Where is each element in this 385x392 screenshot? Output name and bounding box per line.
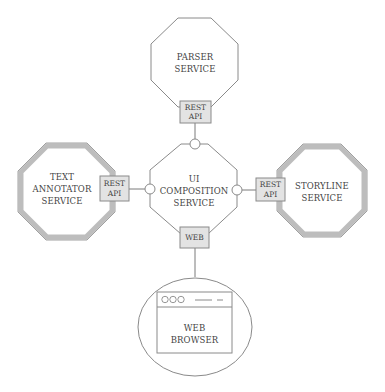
storyline-label-1: STORYLINE [295,181,349,191]
window-control-circle-2-icon [170,296,176,302]
ui-composition-label-3: SERVICE [173,198,214,208]
ui-composition-label-1: UI [189,174,200,184]
window-control-circle-1-icon [162,296,168,302]
parser-service-label-1: PARSER [177,52,214,62]
text-annotator-label-2: ANNOTATOR [32,184,92,194]
parser-service-octagon [151,18,238,107]
parser-rest-api-label-2: API [188,112,202,121]
ui-top-port-icon [190,139,200,149]
text-annotator-label-1: TEXT [50,172,74,182]
parser-service-label-2: SERVICE [174,64,215,74]
window-control-circle-3-icon [178,296,184,302]
ui-composition-service-node: UI COMPOSITION SERVICE WEB [145,139,242,248]
ui-web-interface-label: WEB [185,233,204,242]
web-browser-label-2: BROWSER [171,335,219,345]
web-browser-node: WEB BROWSER [138,278,252,376]
parser-rest-api-label-1: REST [185,103,206,112]
ui-left-port-icon [145,184,155,194]
web-browser-label-1: WEB [184,323,206,333]
storyline-label-2: SERVICE [301,193,342,203]
ui-composition-label-2: COMPOSITION [160,186,229,196]
storyline-service-node: STORYLINE SERVICE REST API [256,144,367,237]
storyline-rest-api-label-1: REST [260,180,281,189]
ui-right-port-icon [232,185,242,195]
text-annotator-service-node: TEXT ANNOTATOR SERVICE REST API [18,143,129,240]
text-annotator-rest-api-label-1: REST [104,179,125,188]
parser-service-node: PARSER SERVICE REST API [151,18,238,123]
text-annotator-rest-api-label-2: API [107,189,121,198]
text-annotator-label-3: SERVICE [41,196,82,206]
storyline-rest-api-label-2: API [263,190,277,199]
architecture-diagram: PARSER SERVICE REST API TEXT ANNOTATOR S… [0,0,385,392]
